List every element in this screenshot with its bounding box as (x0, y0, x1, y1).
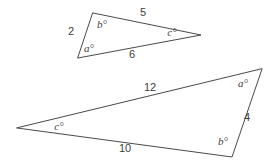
large-triangle-group: 12 4 10 a° b° c° (17, 69, 262, 157)
two-triangles-diagram: 5 6 2 b° a° c° 12 4 10 a° b° c° (0, 0, 276, 166)
small-triangle-group: 5 6 2 b° a° c° (68, 6, 201, 60)
large-triangle-side-label-12: 12 (144, 81, 156, 93)
geometry-figure-container: 5 6 2 b° a° c° 12 4 10 a° b° c° (0, 0, 276, 166)
small-triangle-side-label-6: 6 (129, 48, 135, 60)
large-triangle-side-label-10: 10 (119, 142, 131, 154)
small-triangle-angle-label-b: b° (97, 18, 108, 30)
small-triangle-angle-label-a: a° (84, 42, 95, 54)
large-triangle-angle-label-a: a° (238, 77, 249, 89)
small-triangle-side-label-2: 2 (68, 25, 74, 37)
small-triangle-angle-label-c: c° (167, 26, 177, 38)
large-triangle-angle-label-b: b° (218, 135, 229, 147)
large-triangle-angle-label-c: c° (54, 120, 64, 132)
large-triangle-side-label-4: 4 (244, 111, 250, 123)
small-triangle-side-label-5: 5 (140, 6, 146, 18)
